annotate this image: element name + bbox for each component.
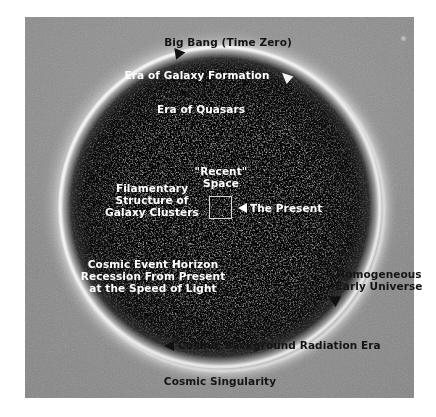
label-filamentary-line3: Galaxy Clusters: [96, 206, 208, 218]
label-cosmic-background-radiation: Cosmic Background Radiation Era: [178, 339, 381, 351]
label-cosmic-singularity: Cosmic Singularity: [140, 375, 300, 387]
label-homogeneous-line1: Homogeneous: [329, 268, 429, 280]
light-speck: [400, 35, 407, 42]
label-filamentary-line2: Structure of: [96, 194, 208, 206]
label-event-horizon-line3: at the Speed of Light: [58, 282, 248, 294]
label-era-of-quasars: Era of Quasars: [141, 103, 261, 115]
label-filamentary-line1: Filamentary: [96, 182, 208, 194]
recent-space-marker: [209, 196, 232, 219]
label-era-galaxy-formation: Era of Galaxy Formation: [117, 69, 277, 81]
label-event-horizon-line1: Cosmic Event Horizon: [58, 258, 248, 270]
arrow-the-present-icon: [238, 203, 247, 213]
figure-canvas: Big Bang (Time Zero) Era of Galaxy Forma…: [0, 0, 436, 417]
label-big-bang: Big Bang (Time Zero): [148, 36, 308, 48]
arrow-cosmic-background-icon: [164, 341, 174, 351]
label-event-horizon-line2: Recession From Present: [58, 270, 248, 282]
label-the-present: The Present: [250, 202, 322, 214]
label-recent-space-line1: "Recent": [186, 165, 256, 177]
label-homogeneous-line2: Early Universe: [329, 280, 429, 292]
